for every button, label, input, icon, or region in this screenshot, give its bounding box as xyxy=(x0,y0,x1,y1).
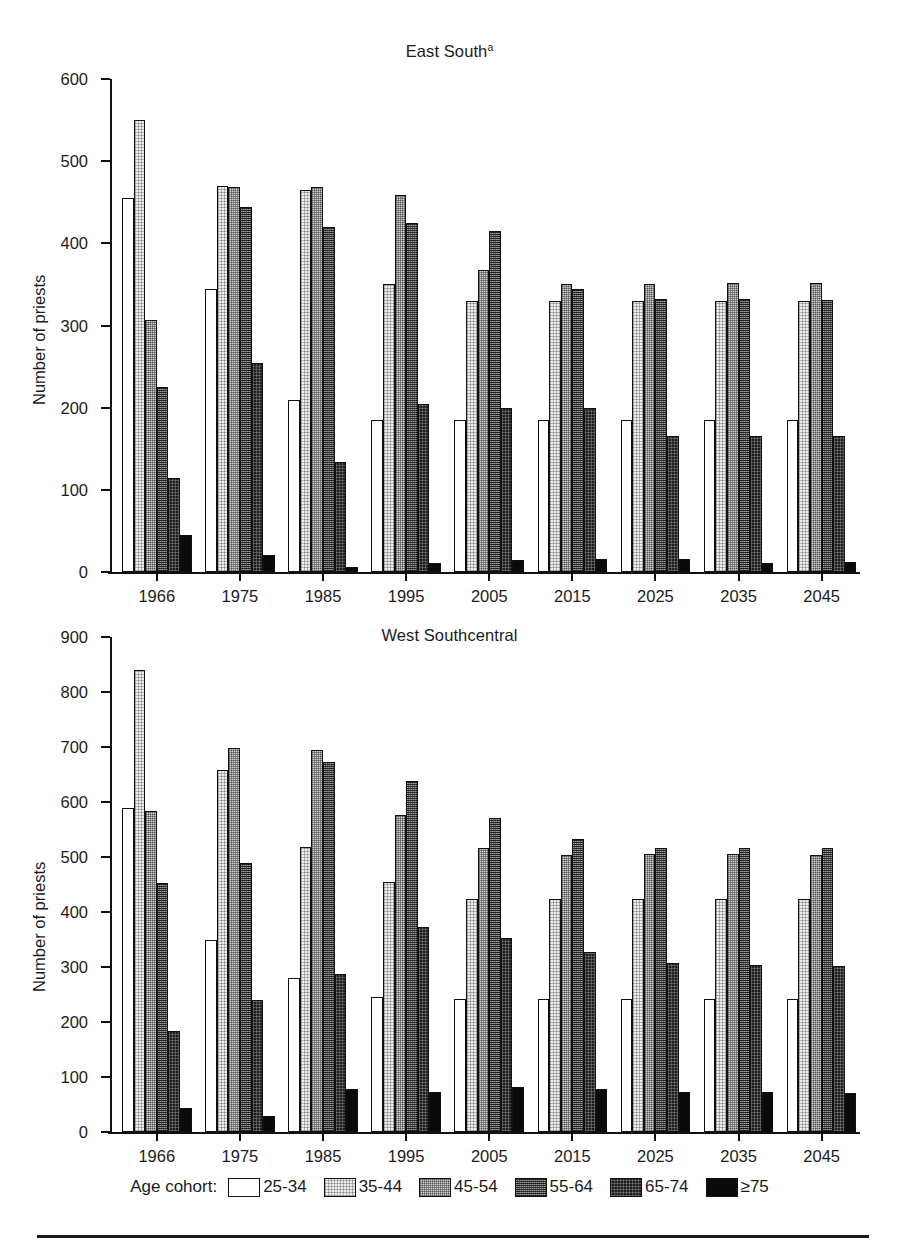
bar-top-2035-25-34 xyxy=(704,420,716,572)
bar-bottom-1995-45-54 xyxy=(395,815,407,1132)
x-tick-mark xyxy=(405,1132,407,1141)
bar-top-2015-≥75 xyxy=(596,559,608,572)
legend-label-55-64: 55-64 xyxy=(550,1177,593,1197)
bar-bottom-2025-25-34 xyxy=(621,999,633,1132)
panel-title-top: East Southa xyxy=(0,42,899,61)
bar-bottom-2045-25-34 xyxy=(787,999,799,1132)
x-tick-label-bottom-2045: 2045 xyxy=(803,1147,840,1166)
x-tick-label-bottom-1995: 1995 xyxy=(388,1147,425,1166)
bar-bottom-2005-55-64 xyxy=(489,818,501,1132)
bar-top-2015-35-44 xyxy=(549,301,561,572)
bar-top-1966-45-54 xyxy=(145,320,157,572)
legend-label-25-34: 25-34 xyxy=(263,1177,306,1197)
bar-top-2035-65-74 xyxy=(750,436,762,572)
bar-bottom-2045-55-64 xyxy=(822,848,834,1132)
legend-item-35-44[interactable]: 35-44 xyxy=(324,1177,402,1197)
bar-bottom-2015-55-64 xyxy=(572,839,584,1132)
x-tick-mark xyxy=(738,572,740,581)
bar-top-1985-35-44 xyxy=(300,190,312,572)
legend: Age cohort: 25-3435-4445-5455-6465-74≥75 xyxy=(0,1172,899,1202)
legend-swatch-icon-65-74 xyxy=(610,1178,642,1197)
legend-caption: Age cohort: xyxy=(130,1177,217,1197)
x-tick-mark xyxy=(322,1132,324,1141)
plot-area-bottom: 0100200300400500600700800900196619751985… xyxy=(110,637,858,1132)
bar-bottom-2005-65-74 xyxy=(501,938,513,1132)
y-axis-line-top xyxy=(110,79,112,572)
bar-bottom-2005-25-34 xyxy=(454,999,466,1132)
bar-bottom-2005-≥75 xyxy=(512,1087,524,1132)
bar-bottom-2005-45-54 xyxy=(478,848,490,1132)
bar-bottom-2045-65-74 xyxy=(833,966,845,1132)
x-tick-mark xyxy=(239,1132,241,1141)
bar-bottom-2035-25-34 xyxy=(704,999,716,1132)
bar-top-1975-25-34 xyxy=(205,289,217,572)
y-tick-label: 200 xyxy=(60,1013,88,1032)
y-tick-label: 200 xyxy=(60,398,88,417)
bar-top-2045-45-54 xyxy=(810,283,822,572)
y-tick-label: 0 xyxy=(79,1123,88,1142)
legend-swatch-icon-25-34 xyxy=(228,1178,260,1197)
y-tick-label: 300 xyxy=(60,316,88,335)
bar-bottom-2045-45-54 xyxy=(810,855,822,1132)
bar-top-1995-45-54 xyxy=(395,195,407,572)
bar-top-2005-45-54 xyxy=(478,270,490,572)
bar-bottom-1966-35-44 xyxy=(134,670,146,1132)
x-tick-mark xyxy=(571,1132,573,1141)
bar-bottom-1966-≥75 xyxy=(180,1108,192,1132)
bar-bottom-1975-55-64 xyxy=(240,863,252,1132)
bar-top-1995-65-74 xyxy=(418,404,430,572)
legend-item-55-64[interactable]: 55-64 xyxy=(515,1177,593,1197)
y-tick-label: 500 xyxy=(60,152,88,171)
y-tick-mark xyxy=(101,746,110,748)
bar-top-1985-55-64 xyxy=(323,227,335,572)
x-tick-mark xyxy=(488,572,490,581)
bar-bottom-1985-25-34 xyxy=(288,978,300,1132)
y-tick-mark xyxy=(101,1131,110,1133)
bar-top-1966-25-34 xyxy=(122,198,134,572)
x-tick-label-top-2045: 2045 xyxy=(803,587,840,606)
bar-top-2005-65-74 xyxy=(501,408,513,572)
bar-bottom-2025-35-44 xyxy=(632,899,644,1132)
y-tick-label: 100 xyxy=(60,1068,88,1087)
y-tick-mark xyxy=(101,966,110,968)
legend-items: 25-3435-4445-5455-6465-74≥75 xyxy=(228,1177,769,1197)
bar-top-2025-25-34 xyxy=(621,420,633,572)
bar-bottom-1966-65-74 xyxy=(168,1031,180,1132)
x-tick-mark xyxy=(654,572,656,581)
legend-item-45-54[interactable]: 45-54 xyxy=(419,1177,497,1197)
y-axis-line-bottom xyxy=(110,637,112,1132)
x-tick-label-top-1995: 1995 xyxy=(388,587,425,606)
y-tick-label: 300 xyxy=(60,958,88,977)
bar-top-1985-45-54 xyxy=(311,187,323,572)
bar-bottom-1995-55-64 xyxy=(406,781,418,1132)
bar-bottom-2025-45-54 xyxy=(644,854,656,1132)
y-tick-mark xyxy=(101,1076,110,1078)
footer-rule xyxy=(37,1235,869,1238)
legend-item-≥75[interactable]: ≥75 xyxy=(706,1177,769,1197)
legend-swatch-icon-≥75 xyxy=(706,1178,738,1197)
bar-bottom-2035-55-64 xyxy=(739,848,751,1132)
x-tick-label-bottom-2005: 2005 xyxy=(471,1147,508,1166)
y-tick-label: 0 xyxy=(79,563,88,582)
bar-top-1966-65-74 xyxy=(168,478,180,572)
bar-bottom-1975-65-74 xyxy=(252,1000,264,1132)
bar-bottom-1995-35-44 xyxy=(383,882,395,1132)
bar-top-1966-≥75 xyxy=(180,535,192,572)
y-tick-mark xyxy=(101,911,110,913)
bar-top-1985-≥75 xyxy=(346,567,358,572)
bar-top-1975-35-44 xyxy=(217,186,229,572)
bar-top-1995-25-34 xyxy=(371,420,383,572)
y-tick-mark xyxy=(101,801,110,803)
bar-top-2045-25-34 xyxy=(787,420,799,572)
legend-swatch-icon-55-64 xyxy=(515,1178,547,1197)
x-tick-label-bottom-1966: 1966 xyxy=(138,1147,175,1166)
bar-top-1966-55-64 xyxy=(157,387,169,572)
legend-item-25-34[interactable]: 25-34 xyxy=(228,1177,306,1197)
chart-panel-east-south: East Southa Number of priests 0100200300… xyxy=(0,0,899,620)
y-tick-mark xyxy=(101,1021,110,1023)
bar-top-2025-65-74 xyxy=(667,436,679,572)
legend-item-65-74[interactable]: 65-74 xyxy=(610,1177,688,1197)
y-tick-label: 400 xyxy=(60,234,88,253)
bar-top-2025-45-54 xyxy=(644,284,656,572)
bar-top-2015-65-74 xyxy=(584,408,596,572)
